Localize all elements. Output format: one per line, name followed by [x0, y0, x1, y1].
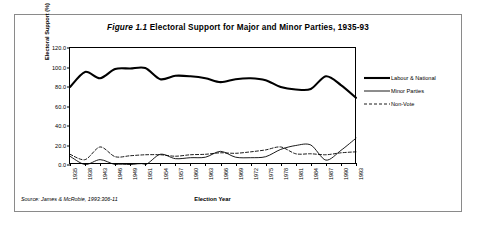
y-tick-label: 100.0	[52, 65, 66, 71]
y-axis-title: Electoral Support (%)	[44, 0, 54, 60]
x-tick-label: 1963	[208, 168, 214, 180]
x-tick-label: 1984	[313, 168, 319, 180]
y-tick-label: 80.0	[55, 84, 66, 90]
y-tick-label: 60.0	[55, 104, 66, 110]
x-tick-label: 1990	[343, 168, 349, 180]
figure-frame: Figure 1.1 Electoral Support for Major a…	[14, 14, 462, 212]
x-tick-label: 1943	[102, 168, 108, 180]
x-tick-label: 1954	[163, 168, 169, 180]
legend-label: Non-Vote	[391, 101, 414, 107]
source-note: Source: James & McRobie, 1993:306-11	[21, 196, 118, 202]
x-tick-label: 1972	[253, 168, 259, 180]
x-tick-label: 1935	[72, 168, 78, 180]
series-line-labour-national	[70, 67, 356, 97]
x-tick-label: 1951	[147, 168, 153, 180]
y-tick-label: 120.0	[52, 45, 66, 51]
y-tick-label: 20.0	[55, 143, 66, 149]
y-tick-label: 0.0	[58, 162, 66, 168]
y-tick-label: 40.0	[55, 123, 66, 129]
x-tick-label: 1978	[283, 168, 289, 180]
chart-title: Figure 1.1 Electoral Support for Major a…	[15, 23, 461, 32]
figure-number: Figure 1.1	[107, 23, 147, 32]
plot-area: Electoral Support (%) 0.020.040.060.080.…	[69, 47, 356, 164]
chart-legend: Labour & NationalMinor PartiesNon-Vote	[364, 73, 460, 112]
x-tick-label: 1975	[268, 168, 274, 180]
x-tick-label: 1938	[87, 168, 93, 180]
x-tick-label: 1949	[132, 168, 138, 180]
x-tick-label: 1966	[223, 168, 229, 180]
legend-label: Minor Parties	[391, 88, 424, 94]
legend-swatch-dashed	[364, 100, 390, 108]
x-tick-label: 1993	[358, 168, 364, 180]
legend-label: Labour & National	[391, 75, 436, 81]
x-tick-label: 1946	[117, 168, 123, 180]
legend-item[interactable]: Labour & National	[364, 73, 460, 83]
series-line-minor-parties	[70, 138, 356, 165]
x-tick-label: 1960	[193, 168, 199, 180]
x-tick-label: 1981	[298, 168, 304, 180]
series-line-non-vote	[70, 147, 356, 160]
figure-title-text: Electoral Support for Major and Minor Pa…	[150, 23, 369, 32]
x-tick-label: 1987	[328, 168, 334, 180]
legend-swatch-thin-solid	[364, 87, 390, 95]
legend-swatch-thick-solid	[364, 74, 390, 82]
chart-lines	[70, 48, 357, 165]
x-tick-label: 1969	[238, 168, 244, 180]
legend-item[interactable]: Minor Parties	[364, 86, 460, 96]
x-tick-label: 1957	[178, 168, 184, 180]
legend-item[interactable]: Non-Vote	[364, 99, 460, 109]
